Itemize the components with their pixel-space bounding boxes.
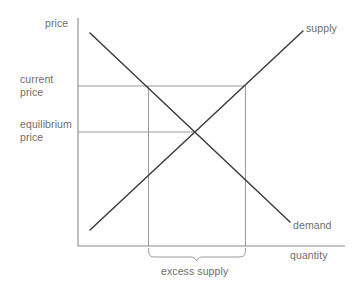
equilibrium-price-label-line1: equilibrium bbox=[20, 118, 72, 131]
supply-curve bbox=[90, 31, 303, 230]
reference-lines bbox=[78, 86, 246, 246]
demand-curve-label: demand bbox=[293, 219, 332, 232]
current-price-label-line1: current bbox=[20, 73, 53, 86]
demand-curve bbox=[90, 33, 290, 222]
y-axis-label: price bbox=[45, 17, 68, 30]
x-axis-label: quantity bbox=[290, 249, 328, 262]
diagram-canvas bbox=[0, 0, 363, 289]
equilibrium-price-label-line2: price bbox=[20, 131, 43, 144]
excess-supply-label: excess supply bbox=[161, 265, 228, 278]
excess-supply-brace bbox=[149, 248, 246, 261]
current-price-label-line2: price bbox=[20, 86, 43, 99]
supply-curve-label: supply bbox=[306, 22, 337, 35]
curves bbox=[90, 31, 303, 230]
supply-demand-diagram: price quantity supply demand current pri… bbox=[0, 0, 363, 289]
